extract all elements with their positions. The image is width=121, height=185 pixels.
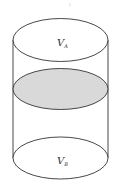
partition-ellipse	[13, 69, 108, 110]
cylinder-diagram: VA VB	[0, 0, 121, 185]
